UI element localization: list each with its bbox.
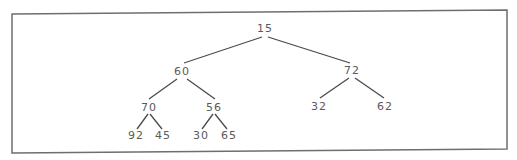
tree-node-60: 60 xyxy=(174,65,190,78)
tree-node-70: 70 xyxy=(141,101,157,114)
tree-canvas: 1560727056326292453065 xyxy=(0,0,517,160)
tree-node-65: 65 xyxy=(221,129,237,142)
tree-node-32: 32 xyxy=(311,100,327,113)
tree-node-62: 62 xyxy=(377,100,393,113)
tree-node-92: 92 xyxy=(128,129,144,142)
tree-node-15: 15 xyxy=(257,22,273,35)
tree-node-56: 56 xyxy=(206,101,222,114)
tree-diagram: 1560727056326292453065 xyxy=(0,0,517,160)
tree-node-45: 45 xyxy=(155,129,171,142)
tree-node-30: 30 xyxy=(193,129,209,142)
tree-node-72: 72 xyxy=(344,64,360,77)
